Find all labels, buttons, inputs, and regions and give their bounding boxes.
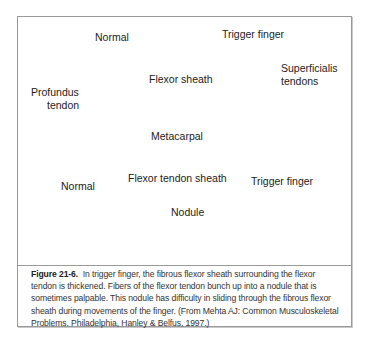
bottom-trigger-title: Trigger finger xyxy=(251,175,313,187)
superficialis-label-line1: Superficialis xyxy=(281,62,338,74)
flexor-sheath-label: Flexor sheath xyxy=(149,73,213,85)
caption-text: In trigger finger, the fibrous flexor sh… xyxy=(31,269,339,328)
profundus-label-line1: Profundus xyxy=(31,86,79,98)
top-trigger-title: Trigger finger xyxy=(222,28,284,40)
caption-label: Figure 21-6. xyxy=(31,269,78,279)
nodule-label: Nodule xyxy=(171,206,204,218)
figure-caption: Figure 21-6. In trigger finger, the fibr… xyxy=(31,268,343,329)
superficialis-label-line2: tendons xyxy=(281,75,318,87)
bottom-normal-title: Normal xyxy=(61,180,95,192)
metacarpal-label: Metacarpal xyxy=(151,130,203,142)
flexor-tendon-sheath-label: Flexor tendon sheath xyxy=(128,172,227,184)
top-normal-title: Normal xyxy=(95,31,129,43)
profundus-label-line2: tendon xyxy=(47,99,79,111)
caption-divider xyxy=(18,265,351,266)
